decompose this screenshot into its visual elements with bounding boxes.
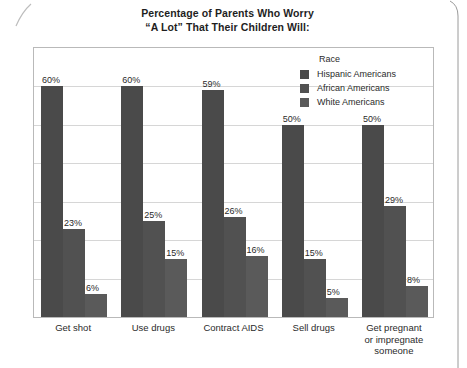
- legend-swatch-icon: [300, 70, 309, 79]
- legend-item-white-americans[interactable]: White Americans: [300, 96, 425, 109]
- bar-value-label: 60%: [42, 75, 60, 85]
- bar-value-label: 50%: [363, 114, 381, 124]
- category-label: Get pregnant or impregnate someone: [354, 322, 434, 357]
- bar-value-label: 16%: [247, 245, 265, 255]
- legend-swatch-icon: [300, 98, 309, 107]
- legend-swatch-icon: [300, 84, 309, 93]
- bar-value-label: 26%: [225, 206, 243, 216]
- bar-value-label: 6%: [86, 283, 99, 293]
- bar-value-label: 50%: [283, 114, 301, 124]
- bar-value-label: 5%: [327, 287, 340, 297]
- bar[interactable]: [121, 86, 143, 317]
- category-label: Get shot: [33, 322, 113, 334]
- bar[interactable]: [304, 259, 326, 317]
- legend-label: White Americans: [317, 97, 385, 108]
- bar[interactable]: [384, 206, 406, 317]
- bar[interactable]: [282, 125, 304, 317]
- category-label: Contract AIDS: [193, 322, 273, 334]
- page-edge-artifact: [447, 0, 467, 368]
- bar[interactable]: [143, 221, 165, 317]
- legend-item-african-americans[interactable]: African Americans: [300, 82, 425, 95]
- category-label: Sell drugs: [274, 322, 354, 334]
- category-label: Use drugs: [113, 322, 193, 334]
- bar[interactable]: [202, 90, 224, 317]
- legend-item-hispanic-americans[interactable]: Hispanic Americans: [300, 68, 425, 81]
- bar[interactable]: [63, 229, 85, 317]
- bar[interactable]: [165, 259, 187, 317]
- bar[interactable]: [224, 217, 246, 317]
- bar-value-label: 25%: [144, 210, 162, 220]
- bar[interactable]: [85, 294, 107, 317]
- bar-value-label: 29%: [385, 195, 403, 205]
- chart-legend: Race Hispanic Americans African American…: [300, 54, 425, 110]
- bar[interactable]: [326, 298, 348, 317]
- page-title: Percentage of Parents Who Worry “A Lot” …: [0, 6, 455, 34]
- bar-value-label: 59%: [203, 79, 221, 89]
- bar-value-label: 60%: [122, 75, 140, 85]
- bar-value-label: 23%: [64, 218, 82, 228]
- bar-value-label: 8%: [407, 275, 420, 285]
- legend-title: Race: [319, 54, 425, 65]
- bar[interactable]: [362, 125, 384, 317]
- bar-value-label: 15%: [166, 248, 184, 258]
- bar[interactable]: [246, 256, 268, 317]
- legend-label: African Americans: [317, 83, 390, 94]
- bar[interactable]: [41, 86, 63, 317]
- bar-value-label: 15%: [305, 248, 323, 258]
- bar[interactable]: [406, 286, 428, 317]
- legend-label: Hispanic Americans: [317, 69, 396, 80]
